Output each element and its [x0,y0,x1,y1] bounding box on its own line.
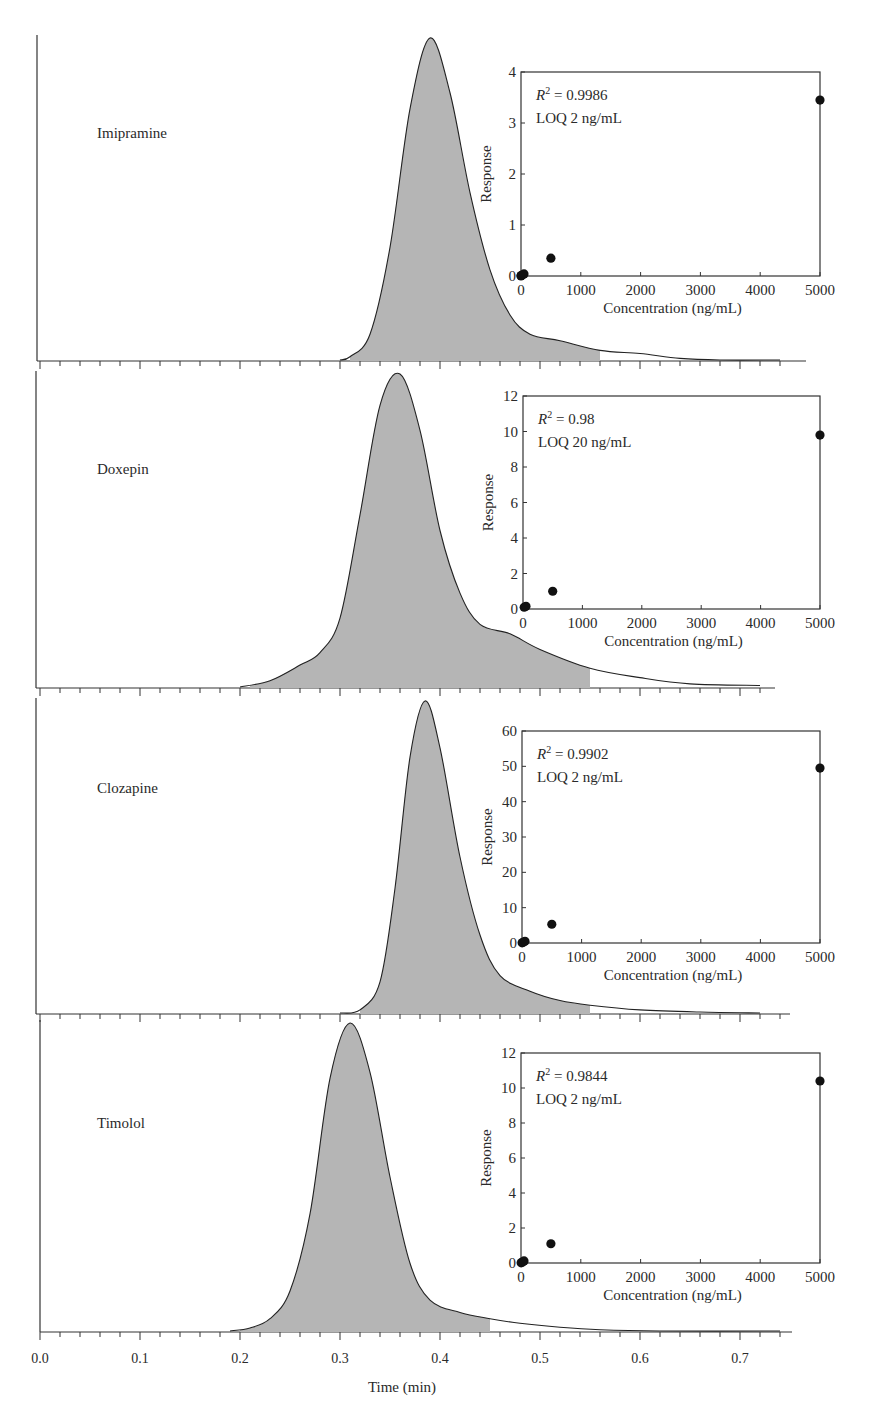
x-tick-label: 3000 [685,1269,715,1285]
y-tick-label: 40 [502,794,517,810]
compound-label: Imipramine [97,125,167,141]
loq-annotation: LOQ 2 ng/mL [536,1091,622,1107]
y-tick-label: 10 [503,424,518,440]
y-tick-label: 1 [509,217,517,233]
data-point [815,430,824,439]
y-tick-label: 4 [509,64,517,80]
x-axis-label: Concentration (ng/mL) [604,967,743,984]
y-tick-label: 0 [511,601,519,617]
plot-frame [522,731,820,943]
data-point [519,269,528,278]
calibration-plot: 01234010002000300040005000Concentration … [478,64,835,317]
y-tick-label: 30 [502,829,517,845]
y-tick-label: 4 [511,530,519,546]
time-tick-label: 0.4 [431,1351,449,1366]
y-tick-label: 0 [510,935,518,951]
data-point [546,1239,555,1248]
plot-frame [521,1053,820,1263]
x-tick-label: 2000 [627,615,657,631]
plot-frame [523,396,820,609]
x-tick-label: 3000 [685,282,715,298]
data-point [815,764,824,773]
y-tick-label: 3 [509,115,517,131]
x-tick-label: 4000 [745,1269,775,1285]
x-tick-label: 0 [518,949,526,965]
y-tick-label: 10 [501,1080,516,1096]
y-tick-label: 12 [501,1045,516,1061]
y-axis-label: Response [478,145,494,203]
time-axis-label: Time (min) [368,1379,436,1396]
x-tick-label: 0 [519,615,527,631]
data-point [521,602,530,611]
time-tick-label: 0.6 [631,1351,649,1366]
r2-annotation: R2 = 0.98 [537,409,594,427]
compound-label: Clozapine [97,780,158,796]
y-tick-label: 60 [502,723,517,739]
data-point [546,254,555,263]
x-tick-label: 4000 [745,949,775,965]
y-tick-label: 2 [511,566,519,582]
x-tick-label: 1000 [567,615,597,631]
data-point [815,95,824,104]
y-tick-label: 20 [502,864,517,880]
x-tick-label: 0 [517,282,525,298]
calibration-plot: 024681012010002000300040005000Concentrat… [478,1045,835,1304]
x-tick-label: 0 [517,1269,525,1285]
x-tick-label: 2000 [626,282,656,298]
x-tick-label: 4000 [746,615,776,631]
y-tick-label: 2 [509,1220,517,1236]
y-axis-label: Response [478,1129,494,1187]
data-point [548,587,557,596]
compound-label: Timolol [97,1115,145,1131]
loq-annotation: LOQ 2 ng/mL [537,769,623,785]
compound-label: Doxepin [97,461,149,477]
data-point [519,1256,528,1265]
x-tick-label: 1000 [566,1269,596,1285]
loq-annotation: LOQ 2 ng/mL [536,110,622,126]
x-tick-label: 2000 [626,949,656,965]
y-axis-label: Response [479,808,495,866]
calibration-plot: 0102030405060010002000300040005000Concen… [479,723,835,984]
x-axis-label: Concentration (ng/mL) [603,1287,742,1304]
x-tick-label: 3000 [686,949,716,965]
time-tick-label: 0.3 [331,1351,349,1366]
y-tick-label: 8 [509,1115,517,1131]
y-tick-label: 8 [511,459,519,475]
x-axis-label: Concentration (ng/mL) [603,300,742,317]
x-axis-label: Concentration (ng/mL) [604,633,743,650]
y-tick-label: 4 [509,1185,517,1201]
y-tick-label: 2 [509,166,517,182]
x-tick-label: 5000 [805,1269,835,1285]
x-tick-label: 1000 [567,949,597,965]
y-tick-label: 12 [503,388,518,404]
time-tick-label: 0.2 [231,1351,249,1366]
x-tick-label: 4000 [745,282,775,298]
time-tick-label: 0.5 [531,1351,549,1366]
time-tick-label: 0.7 [731,1351,749,1366]
y-tick-label: 0 [509,1255,517,1271]
time-tick-label: 0.0 [31,1351,49,1366]
x-tick-label: 3000 [686,615,716,631]
loq-annotation: LOQ 20 ng/mL [538,434,631,450]
data-point [520,937,529,946]
data-point [815,1076,824,1085]
x-tick-label: 1000 [566,282,596,298]
y-tick-label: 0 [509,268,517,284]
x-tick-label: 5000 [805,282,835,298]
x-tick-label: 5000 [805,615,835,631]
y-tick-label: 50 [502,758,517,774]
calibration-plot: 024681012010002000300040005000Concentrat… [480,388,835,650]
y-tick-label: 6 [511,495,519,511]
y-axis-label: Response [480,473,496,531]
data-point [547,920,556,929]
x-tick-label: 2000 [626,1269,656,1285]
x-tick-label: 5000 [805,949,835,965]
y-tick-label: 10 [502,900,517,916]
figure: ImipramineDoxepinClozapineTimolol0.00.10… [0,0,873,1416]
y-tick-label: 6 [509,1150,517,1166]
time-tick-label: 0.1 [131,1351,149,1366]
